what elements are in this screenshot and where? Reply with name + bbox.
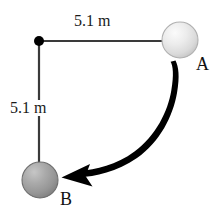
left-distance-label: 5.1 m — [8, 100, 48, 116]
pivot-point — [34, 36, 44, 46]
pendulum-swing-diagram: 5.1 m 5.1 m A B — [0, 0, 220, 217]
swing-arc-arrow — [79, 61, 179, 178]
ball-b-label: B — [60, 190, 72, 208]
ball-a-label: A — [196, 55, 209, 73]
ball-b-sphere — [22, 162, 58, 198]
top-distance-label: 5.1 m — [72, 13, 112, 29]
ball-a-sphere — [162, 22, 198, 58]
